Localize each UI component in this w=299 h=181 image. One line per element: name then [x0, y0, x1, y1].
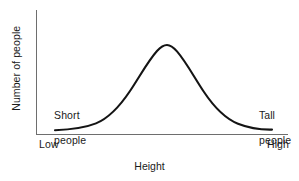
y-axis-title: Number of people [10, 8, 23, 128]
normal-distribution-curve [55, 45, 272, 130]
annotation-short-people: Short people [42, 96, 86, 159]
annotation-short-line2: people [54, 134, 86, 146]
annotation-tall-line1: Tall [259, 109, 275, 121]
annotation-short-line1: Short [54, 109, 80, 121]
annotation-tall-people: Tall people [247, 96, 291, 159]
annotation-tall-line2: people [259, 134, 291, 146]
x-axis-title: Height [0, 160, 299, 172]
bell-curve-figure: Number of people Height Low High Short p… [0, 0, 299, 181]
